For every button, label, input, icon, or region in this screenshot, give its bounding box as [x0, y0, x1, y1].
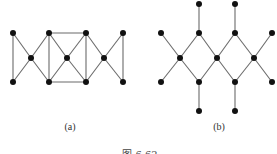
graph-vertex	[83, 30, 89, 36]
graph-edge	[199, 33, 217, 58]
graph-edge	[31, 58, 49, 82]
graph-edge	[180, 58, 199, 82]
graph-vertex	[10, 79, 16, 85]
graph-vertex	[251, 55, 257, 61]
graph-edge	[254, 33, 272, 58]
graph-edge	[86, 58, 104, 82]
graph-edge	[31, 33, 49, 58]
graph-edge	[254, 58, 272, 82]
graph-vertex	[196, 1, 202, 7]
graph-vertex	[46, 30, 52, 36]
graph-vertex	[214, 55, 220, 61]
graph-vertex	[269, 30, 275, 36]
graph-edge	[161, 33, 180, 58]
graph-vertex	[158, 79, 164, 85]
graph-vertex	[196, 108, 202, 114]
graph-edge	[199, 58, 217, 82]
graph-vertex	[10, 30, 16, 36]
graph-vertex	[232, 1, 238, 7]
graph-edge	[235, 33, 254, 58]
graph-vertex	[196, 30, 202, 36]
graph-vertex	[196, 79, 202, 85]
graph-vertex	[269, 79, 275, 85]
graph-edge	[86, 33, 104, 58]
graph-edge	[104, 58, 123, 82]
graph-b-label: (b)	[213, 121, 225, 133]
graph-edge	[13, 33, 31, 58]
graph-vertex	[101, 55, 107, 61]
graph-edge	[104, 33, 123, 58]
graph-vertex	[232, 108, 238, 114]
graph-edge	[13, 58, 31, 82]
graph-edge	[67, 58, 86, 82]
graph-b	[158, 1, 275, 114]
graph-edge	[49, 33, 67, 58]
graph-vertex	[232, 30, 238, 36]
graph-edge	[161, 58, 180, 82]
graph-vertex	[158, 30, 164, 36]
graph-vertex	[83, 79, 89, 85]
graph-vertex	[64, 55, 70, 61]
graph-vertex	[28, 55, 34, 61]
graph-vertex	[232, 79, 238, 85]
graph-edge	[49, 58, 67, 82]
figure-canvas: (a) (b) 图 6.62	[0, 0, 277, 154]
graph-a-label: (a)	[64, 121, 75, 133]
graph-vertex	[177, 55, 183, 61]
graph-vertex	[46, 79, 52, 85]
graph-edge	[217, 58, 235, 82]
graph-vertex	[120, 30, 126, 36]
graph-vertex	[120, 79, 126, 85]
graph-edge	[180, 33, 199, 58]
graph-edge	[217, 33, 235, 58]
graph-edge	[67, 33, 86, 58]
figure-caption: 图 6.62	[122, 149, 157, 154]
graph-edge	[235, 58, 254, 82]
graph-a	[10, 30, 126, 85]
